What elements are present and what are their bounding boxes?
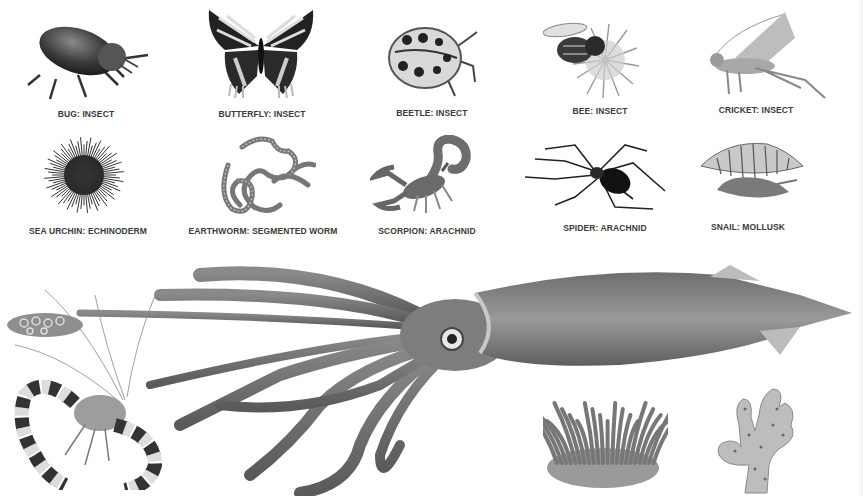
bug-icon	[20, 15, 155, 100]
caption-butterfly: BUTTERFLY: INSECT	[218, 109, 305, 119]
bug-illustration	[20, 15, 155, 100]
sea-anemone-illustration	[543, 393, 668, 488]
shrimp-icon	[5, 285, 175, 490]
snail-icon	[697, 140, 807, 210]
sea-urchin-icon	[42, 135, 128, 215]
caption-spider: SPIDER: ARACHNID	[563, 223, 646, 233]
bee-on-flower-icon	[543, 18, 643, 98]
caption-cricket: CRICKET: INSECT	[719, 105, 794, 115]
sponge-icon	[715, 385, 800, 495]
caption-sea-urchin: SEA URCHIN: ECHINODERM	[29, 226, 147, 236]
sponge-illustration	[715, 385, 800, 495]
earthworm-icon	[218, 135, 316, 215]
bee-illustration	[543, 18, 643, 98]
butterfly-icon	[205, 6, 317, 98]
invertebrates-plate: BUG: INSECT BUTTERFLY: INSECT BEETLE: IN…	[0, 0, 863, 496]
page-edge	[857, 0, 863, 496]
butterfly-illustration	[205, 6, 317, 98]
caption-earthworm: EARTHWORM: SEGMENTED WORM	[189, 226, 338, 236]
scorpion-icon	[370, 135, 475, 215]
snail-illustration	[697, 140, 807, 210]
caption-snail: SNAIL: MOLLUSK	[711, 222, 785, 232]
caption-beetle: BEETLE: INSECT	[396, 108, 467, 118]
sea-anemone-icon	[543, 393, 668, 488]
caption-bee: BEE: INSECT	[573, 106, 628, 116]
spider-illustration	[525, 135, 670, 215]
shrimp-illustration	[5, 285, 175, 490]
cricket-illustration	[705, 8, 830, 100]
sea-urchin-illustration	[42, 135, 128, 215]
ladybird-beetle-icon	[385, 18, 480, 98]
earthworm-illustration	[218, 135, 316, 215]
beetle-illustration	[385, 18, 480, 98]
caption-bug: BUG: INSECT	[58, 109, 114, 119]
spider-icon	[525, 135, 670, 215]
cricket-icon	[705, 8, 830, 100]
scorpion-illustration	[370, 135, 475, 215]
caption-scorpion: SCORPION: ARACHNID	[378, 226, 475, 236]
